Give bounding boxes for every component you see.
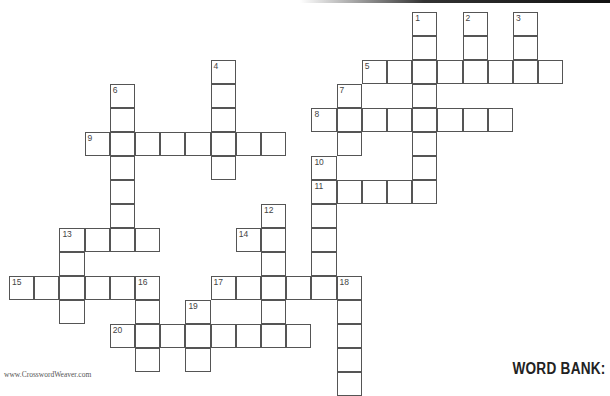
clue-number: 17 [214, 277, 223, 287]
grid-cell[interactable] [437, 108, 462, 132]
grid-cell[interactable] [337, 180, 362, 204]
grid-cell[interactable] [337, 108, 362, 132]
grid-cell[interactable] [362, 108, 387, 132]
clue-number: 9 [88, 133, 93, 143]
grid-cell[interactable] [85, 276, 110, 300]
grid-cell[interactable]: 2 [463, 12, 488, 36]
grid-cell[interactable] [160, 132, 185, 156]
grid-cell[interactable] [236, 324, 261, 348]
grid-cell[interactable]: 5 [362, 60, 387, 84]
grid-cell[interactable] [286, 276, 311, 300]
grid-cell[interactable] [135, 132, 160, 156]
grid-cell[interactable]: 14 [236, 228, 261, 252]
grid-cell[interactable]: 3 [513, 12, 538, 36]
grid-cell[interactable]: 8 [311, 108, 336, 132]
grid-cell[interactable] [412, 180, 437, 204]
grid-cell[interactable]: 20 [110, 324, 135, 348]
grid-cell[interactable]: 7 [337, 84, 362, 108]
grid-cell[interactable] [412, 84, 437, 108]
grid-cell[interactable] [538, 60, 563, 84]
grid-cell[interactable] [261, 228, 286, 252]
grid-cell[interactable] [311, 252, 336, 276]
grid-cell[interactable] [387, 108, 412, 132]
grid-cell[interactable] [135, 348, 160, 372]
clue-number: 10 [314, 157, 323, 167]
grid-cell[interactable] [337, 372, 362, 396]
grid-cell[interactable] [34, 276, 59, 300]
grid-cell[interactable]: 1 [412, 12, 437, 36]
grid-cell[interactable] [337, 132, 362, 156]
grid-cell[interactable] [337, 300, 362, 324]
grid-cell[interactable] [185, 324, 210, 348]
grid-cell[interactable]: 9 [85, 132, 110, 156]
clue-number: 12 [264, 205, 273, 215]
clue-number: 4 [214, 61, 219, 71]
grid-cell[interactable] [412, 108, 437, 132]
grid-cell[interactable] [261, 252, 286, 276]
grid-cell[interactable] [185, 348, 210, 372]
grid-cell[interactable] [211, 132, 236, 156]
grid-cell[interactable] [59, 252, 84, 276]
grid-cell[interactable] [236, 276, 261, 300]
grid-cell[interactable] [59, 300, 84, 324]
grid-cell[interactable]: 19 [185, 300, 210, 324]
grid-cell[interactable] [160, 324, 185, 348]
grid-cell[interactable] [412, 132, 437, 156]
grid-cell[interactable] [337, 324, 362, 348]
grid-cell[interactable] [513, 60, 538, 84]
grid-cell[interactable]: 18 [337, 276, 362, 300]
grid-cell[interactable] [488, 60, 513, 84]
grid-cell[interactable] [135, 324, 160, 348]
grid-cell[interactable] [261, 132, 286, 156]
grid-cell[interactable] [110, 180, 135, 204]
grid-cell[interactable]: 13 [59, 228, 84, 252]
grid-cell[interactable] [135, 300, 160, 324]
grid-cell[interactable] [211, 156, 236, 180]
grid-cell[interactable] [362, 180, 387, 204]
grid-cell[interactable] [286, 324, 311, 348]
grid-cell[interactable] [85, 228, 110, 252]
grid-cell[interactable] [261, 324, 286, 348]
grid-cell[interactable] [110, 156, 135, 180]
grid-cell[interactable] [311, 204, 336, 228]
grid-cell[interactable] [463, 60, 488, 84]
grid-cell[interactable] [211, 324, 236, 348]
grid-cell[interactable] [412, 156, 437, 180]
grid-cell[interactable]: 16 [135, 276, 160, 300]
grid-cell[interactable] [110, 132, 135, 156]
grid-cell[interactable] [463, 108, 488, 132]
grid-cell[interactable] [437, 60, 462, 84]
grid-cell[interactable]: 15 [9, 276, 34, 300]
grid-cell[interactable] [387, 180, 412, 204]
grid-cell[interactable] [311, 228, 336, 252]
grid-cell[interactable] [488, 108, 513, 132]
grid-cell[interactable] [236, 132, 261, 156]
grid-cell[interactable] [412, 36, 437, 60]
grid-cell[interactable]: 12 [261, 204, 286, 228]
grid-cell[interactable] [337, 348, 362, 372]
grid-cell[interactable] [311, 276, 336, 300]
grid-cell[interactable] [513, 36, 538, 60]
grid-cell[interactable]: 11 [311, 180, 336, 204]
grid-cell[interactable] [261, 276, 286, 300]
grid-cell[interactable] [211, 84, 236, 108]
grid-cell[interactable] [110, 108, 135, 132]
grid-cell[interactable] [412, 60, 437, 84]
grid-cell[interactable]: 4 [211, 60, 236, 84]
grid-cell[interactable] [211, 108, 236, 132]
clue-number: 2 [466, 13, 471, 23]
grid-cell[interactable] [185, 132, 210, 156]
clue-number: 14 [239, 229, 248, 239]
grid-cell[interactable]: 17 [211, 276, 236, 300]
grid-cell[interactable] [135, 228, 160, 252]
grid-cell[interactable] [110, 276, 135, 300]
grid-cell[interactable] [387, 60, 412, 84]
grid-cell[interactable]: 6 [110, 84, 135, 108]
grid-cell[interactable] [261, 300, 286, 324]
grid-cell[interactable] [110, 204, 135, 228]
grid-cell[interactable] [110, 228, 135, 252]
grid-cell[interactable]: 10 [311, 156, 336, 180]
grid-cell[interactable] [59, 276, 84, 300]
grid-cell[interactable] [463, 36, 488, 60]
